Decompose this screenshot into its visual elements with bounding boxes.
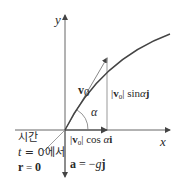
initial-condition-line2: t = 0에서 [18, 146, 65, 158]
vertical-component-label: |v0| sinαj [111, 88, 149, 101]
y-axis-label: y [55, 13, 61, 26]
angle-arc [77, 110, 88, 130]
trajectory-curve [65, 34, 170, 130]
initial-condition-line3: r = 0 [18, 161, 41, 173]
initial-velocity-label: v0 [78, 84, 90, 98]
initial-condition-line1: 시간 [18, 132, 38, 143]
angle-label: α [91, 106, 97, 118]
x-axis-label: x [160, 135, 166, 148]
acceleration-label: a = −gj [70, 158, 106, 170]
horizontal-component-label: |v0| cos αi [70, 134, 112, 147]
